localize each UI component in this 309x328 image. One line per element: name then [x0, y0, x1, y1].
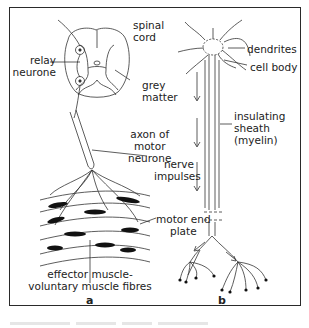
label-nerve-impulses: nerveimpulses	[154, 158, 194, 182]
label-insulating-sheath: insulatingsheath(myelin)	[234, 110, 285, 146]
motor-end-leader-a	[140, 218, 156, 224]
label-grey-matter: greymatter	[142, 79, 178, 103]
label-motor-end-plate: motor endplate	[156, 213, 211, 237]
label-relay-neurone: relayneurone	[10, 54, 56, 78]
spinal-cord-icon	[58, 20, 129, 97]
panel-letter-b: b	[218, 294, 226, 307]
label-effector-muscle: effector muscle-voluntary muscle fibres	[28, 268, 152, 292]
label-cell-body: cell body	[250, 61, 297, 73]
label-dendrites: dendrites	[247, 43, 297, 55]
faded-caption-line	[10, 313, 300, 323]
panel-letter-a: a	[86, 294, 93, 307]
label-spinal-cord: spinalcord	[133, 19, 164, 43]
